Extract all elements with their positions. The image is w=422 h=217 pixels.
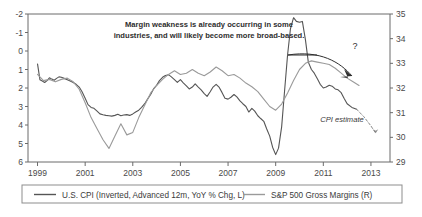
legend-label-1[interactable]: S&P 500 Gross Margins (R) <box>271 191 373 200</box>
legend-items-group[interactable]: U.S. CPI (Inverted, Advanced 12m, YoY % … <box>34 191 373 200</box>
legend-svg: U.S. CPI (Inverted, Advanced 12m, YoY % … <box>0 0 422 217</box>
legend-label-0[interactable]: U.S. CPI (Inverted, Advanced 12m, YoY % … <box>62 191 245 200</box>
chart-container: -2-1012345635343332313029199920012003200… <box>0 0 422 217</box>
